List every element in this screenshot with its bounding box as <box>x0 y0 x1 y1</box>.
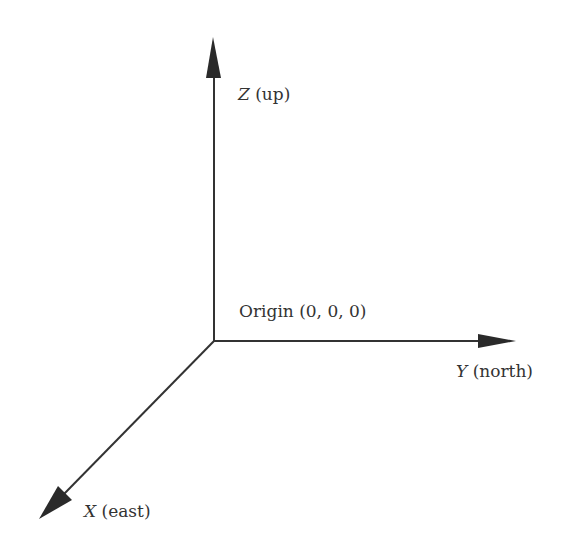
z-axis-label: Z (up) <box>237 84 290 104</box>
y-axis <box>214 334 516 348</box>
coordinate-axes-diagram: Z (up) Origin (0, 0, 0) Y (north) X (eas… <box>0 0 563 548</box>
x-axis <box>39 341 214 519</box>
y-axis-label: Y (north) <box>456 361 533 381</box>
z-axis <box>206 37 221 341</box>
y-arrowhead-icon <box>478 334 516 348</box>
z-arrowhead-icon <box>206 37 221 78</box>
x-axis-label: X (east) <box>82 501 151 521</box>
origin-label: Origin (0, 0, 0) <box>239 301 367 321</box>
